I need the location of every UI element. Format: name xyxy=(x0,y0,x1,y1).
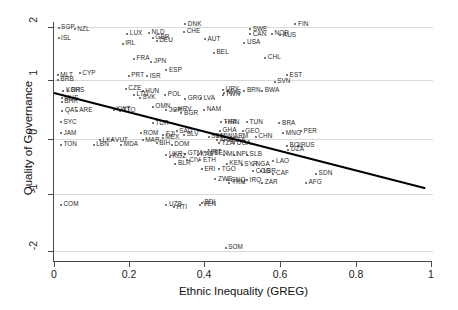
data-point-label: PRT xyxy=(131,72,144,78)
y-tick-1 xyxy=(48,80,53,81)
data-point-label: MNG xyxy=(286,130,301,136)
data-point xyxy=(140,132,142,134)
x-tick-1 xyxy=(431,262,432,267)
x-tick-02 xyxy=(129,262,130,267)
data-point xyxy=(146,75,148,77)
data-point xyxy=(287,149,289,151)
data-point-label: ISR xyxy=(150,73,161,79)
data-point xyxy=(128,75,130,77)
data-point-label: CHE xyxy=(187,28,201,34)
data-point-label: COM xyxy=(63,201,78,207)
data-point-label: TUN xyxy=(250,119,263,125)
y-axis-line xyxy=(53,22,54,262)
data-point xyxy=(218,142,220,144)
data-point xyxy=(243,42,245,44)
data-point-label: SDN xyxy=(319,170,333,176)
x-tick-04 xyxy=(204,262,205,267)
data-point xyxy=(113,109,115,111)
data-point-label: TTO xyxy=(123,107,136,113)
data-point-label: CYP xyxy=(82,70,95,76)
data-point xyxy=(67,90,69,92)
data-point xyxy=(220,121,222,123)
data-point-label: EST xyxy=(290,72,303,78)
data-point xyxy=(233,154,235,156)
data-point-label: PER xyxy=(304,128,317,134)
x-axis-title: Ethnic Inequality (GREG) xyxy=(54,285,433,297)
data-point xyxy=(58,27,60,29)
x-ticklabel-06: 0.6 xyxy=(273,268,288,280)
data-point-label: BRB xyxy=(60,76,73,82)
data-point xyxy=(150,61,152,63)
data-point xyxy=(152,122,154,124)
data-point xyxy=(60,204,62,206)
data-point-label: GRC xyxy=(188,95,203,101)
data-point-label: FIN xyxy=(298,21,309,27)
data-point xyxy=(279,34,281,36)
data-point-label: SLB xyxy=(250,151,262,157)
data-point-label: BRN xyxy=(247,87,261,93)
data-point xyxy=(261,90,263,92)
data-point-label: COG xyxy=(256,168,271,174)
data-point-label: TUR xyxy=(155,120,168,126)
data-point-label: ISL xyxy=(61,35,71,41)
data-point xyxy=(99,139,101,141)
data-point xyxy=(208,136,210,138)
data-point xyxy=(286,74,288,76)
data-point xyxy=(122,43,124,45)
data-point-label: ERI xyxy=(204,166,215,172)
data-point xyxy=(156,40,158,42)
data-point xyxy=(165,154,167,156)
data-point xyxy=(286,145,288,147)
data-point xyxy=(176,130,178,132)
data-point xyxy=(225,121,227,123)
data-point-label: IRQ xyxy=(250,177,262,183)
data-point xyxy=(249,33,251,35)
data-point-label: BHS xyxy=(71,87,84,93)
data-point-label: JAM xyxy=(63,130,76,136)
data-point xyxy=(186,159,188,161)
data-point xyxy=(255,136,257,138)
data-point xyxy=(204,38,206,40)
y-tick-0 xyxy=(48,139,53,140)
data-point xyxy=(243,90,245,92)
data-point xyxy=(183,31,185,33)
data-point xyxy=(246,154,248,156)
data-point xyxy=(233,142,235,144)
data-point-label: BWA xyxy=(265,87,280,93)
data-point xyxy=(165,69,167,71)
data-point-label: NAM xyxy=(207,106,222,112)
data-point-label: ARE xyxy=(79,107,92,113)
data-point-label: ESP xyxy=(169,67,182,73)
data-point xyxy=(315,173,317,175)
data-point xyxy=(261,182,263,184)
data-point xyxy=(184,98,186,100)
data-point xyxy=(74,28,76,30)
data-point xyxy=(174,163,176,165)
data-point xyxy=(216,139,218,141)
data-point xyxy=(58,37,60,39)
data-point-label: TKM xyxy=(232,179,246,185)
data-point-label: IRL xyxy=(125,40,135,46)
data-point-label: LVA xyxy=(204,95,215,101)
data-point-label: DNK xyxy=(188,21,202,27)
data-point xyxy=(156,142,158,144)
data-point xyxy=(218,168,220,170)
x-tick-0 xyxy=(54,262,55,267)
data-point xyxy=(201,202,203,204)
data-point xyxy=(199,159,201,161)
x-ticklabel-0: 0 xyxy=(51,268,57,280)
x-tick-08 xyxy=(356,262,357,267)
x-ticklabel-1: 1 xyxy=(428,268,434,280)
data-point xyxy=(119,110,121,112)
data-point-label: TWN xyxy=(225,91,240,97)
data-point xyxy=(79,72,81,74)
data-point-label: DZA xyxy=(291,146,304,152)
data-point xyxy=(148,32,150,34)
data-point-label: BDI xyxy=(204,199,215,205)
data-point xyxy=(61,97,63,99)
data-point xyxy=(184,23,186,25)
data-point xyxy=(278,122,280,124)
data-point xyxy=(246,121,248,123)
y-tick-2 xyxy=(48,27,53,28)
data-point-label: AUS xyxy=(283,32,296,38)
